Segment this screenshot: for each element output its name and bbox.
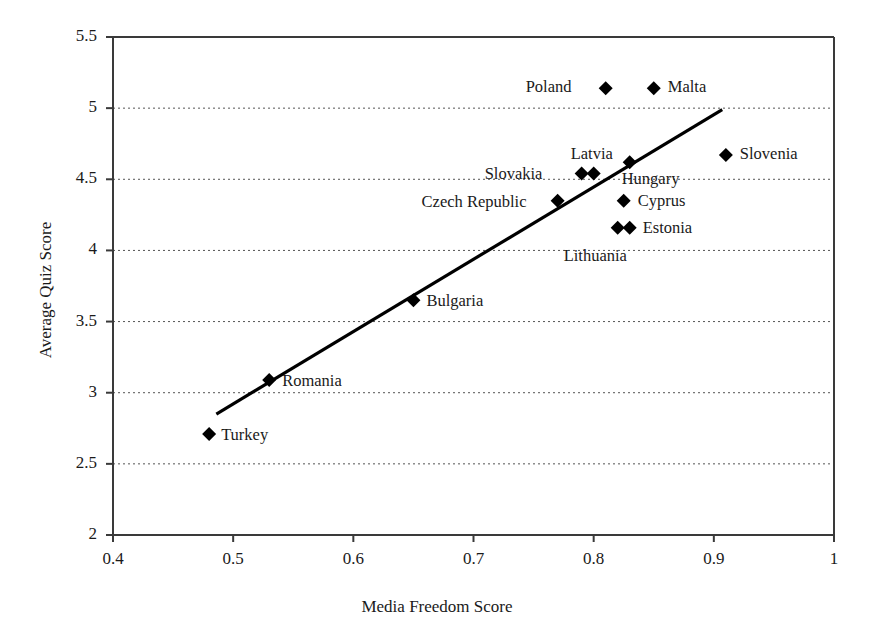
y-tick-label-5: 4.5 bbox=[51, 168, 97, 188]
data-marker-malta[interactable] bbox=[647, 81, 661, 95]
data-marker-cyprus[interactable] bbox=[617, 194, 631, 208]
y-tick-label-3: 3.5 bbox=[51, 311, 97, 331]
point-label-slovenia: Slovenia bbox=[740, 144, 798, 164]
trend-line bbox=[216, 110, 722, 414]
point-label-latvia: Latvia bbox=[571, 144, 613, 164]
x-tick-label-6: 1 bbox=[804, 549, 864, 569]
scatter-chart-figure: TurkeyRomaniaBulgariaCzech RepublicSlova… bbox=[0, 0, 874, 633]
x-axis-title: Media Freedom Score bbox=[0, 597, 874, 617]
data-marker-estonia[interactable] bbox=[611, 221, 625, 235]
axis-frame bbox=[113, 37, 834, 535]
point-label-cyprus: Cyprus bbox=[638, 191, 686, 211]
data-marker-slovenia[interactable] bbox=[719, 148, 733, 162]
x-tick-marks bbox=[113, 535, 834, 542]
data-marker-turkey[interactable] bbox=[202, 427, 216, 441]
x-tick-label-0: 0.4 bbox=[83, 549, 143, 569]
data-marker-poland[interactable] bbox=[599, 81, 613, 95]
trend-line-group bbox=[216, 110, 722, 414]
plot-canvas bbox=[0, 0, 874, 633]
y-tick-label-7: 5.5 bbox=[51, 26, 97, 46]
y-tick-label-2: 3 bbox=[51, 382, 97, 402]
point-label-czech-republic: Czech Republic bbox=[422, 192, 527, 212]
x-tick-label-4: 0.8 bbox=[564, 549, 624, 569]
y-axis-title: Average Quiz Score bbox=[36, 140, 56, 440]
point-label-estonia: Estonia bbox=[643, 218, 693, 238]
point-label-slovakia: Slovakia bbox=[485, 164, 543, 184]
data-marker-slovakia[interactable] bbox=[575, 167, 589, 181]
point-label-hungary: Hungary bbox=[622, 169, 680, 189]
x-tick-label-1: 0.5 bbox=[203, 549, 263, 569]
y-tick-label-4: 4 bbox=[51, 239, 97, 259]
x-tick-label-5: 0.9 bbox=[684, 549, 744, 569]
y-tick-label-6: 5 bbox=[51, 97, 97, 117]
data-marker-lithuania[interactable] bbox=[623, 221, 637, 235]
data-marker-bulgaria[interactable] bbox=[406, 293, 420, 307]
x-tick-label-2: 0.6 bbox=[323, 549, 383, 569]
point-label-malta: Malta bbox=[668, 77, 707, 97]
point-label-turkey: Turkey bbox=[221, 425, 268, 445]
data-marker-latvia[interactable] bbox=[587, 167, 601, 181]
y-tick-marks bbox=[106, 37, 113, 535]
point-label-romania: Romania bbox=[282, 371, 342, 391]
x-tick-label-3: 0.7 bbox=[444, 549, 504, 569]
y-tick-label-1: 2.5 bbox=[51, 453, 97, 473]
point-label-bulgaria: Bulgaria bbox=[426, 291, 483, 311]
point-label-poland: Poland bbox=[526, 77, 572, 97]
y-tick-label-0: 2 bbox=[51, 524, 97, 544]
point-label-lithuania: Lithuania bbox=[564, 246, 627, 266]
